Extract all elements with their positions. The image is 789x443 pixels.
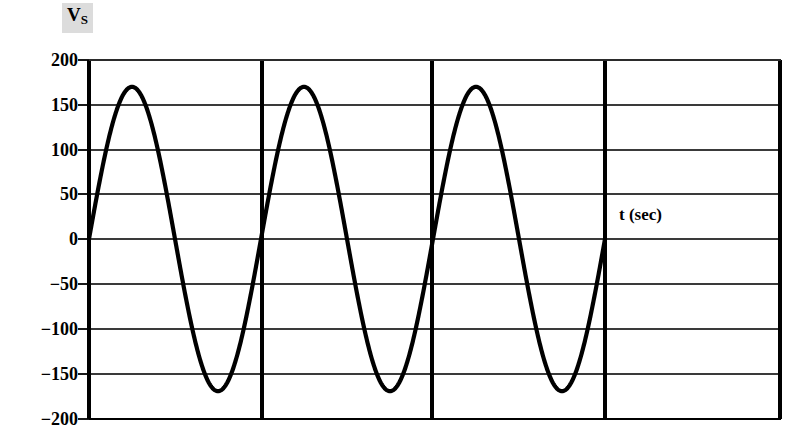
plot-area <box>0 0 789 443</box>
sine-waveform-figure: VS 200 150 100 50 0 −50 −100 −150 −200 t… <box>0 0 789 443</box>
